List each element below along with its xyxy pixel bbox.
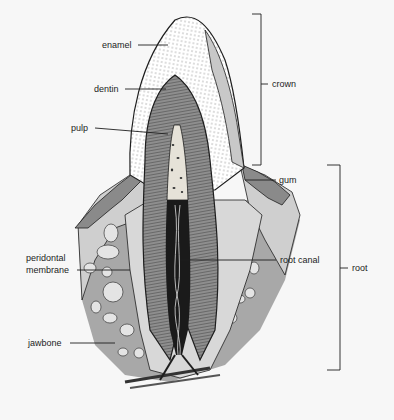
label-crown: crown xyxy=(272,79,296,89)
label-enamel: enamel xyxy=(102,40,132,50)
label-pulp: pulp xyxy=(71,123,88,133)
label-gum: gum xyxy=(279,175,297,185)
label-dentin: dentin xyxy=(94,84,119,94)
label-root-canal: root canal xyxy=(280,255,320,265)
label-jawbone: jawbone xyxy=(28,338,62,348)
label-peridontal-membrane-2: membrane xyxy=(26,265,69,275)
label-root: root xyxy=(352,263,368,273)
tooth-diagram xyxy=(0,0,394,420)
label-peridontal-membrane-1: peridontal xyxy=(26,253,66,263)
